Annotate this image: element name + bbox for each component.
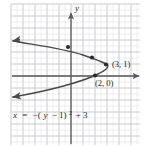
curve-point	[90, 55, 94, 59]
grid-major	[11, 4, 140, 145]
equation-neg-open: −(	[33, 110, 41, 120]
intercept-point-label: (2, 0)	[95, 78, 114, 88]
parabola-curve	[13, 40, 108, 98]
coordinate-plane-svg: y (3, 1) (2, 0) x = −( y − 1) 2	[0, 0, 145, 147]
curve-point-vertex	[104, 62, 108, 66]
graph-figure: y (3, 1) (2, 0) x = −( y − 1) 2	[0, 0, 145, 147]
curve-point	[66, 45, 70, 49]
equation-equals: =	[22, 110, 27, 120]
equation-exponent: 2	[69, 110, 72, 116]
equation-variable: y	[42, 110, 47, 120]
y-axis-label: y	[74, 3, 79, 13]
equation-plus-three: + 3	[76, 110, 88, 120]
equation-lhs: x	[12, 110, 17, 120]
curve-point-intercept	[93, 73, 97, 77]
vertex-point-label: (3, 1)	[112, 59, 131, 69]
equation-minus-one: − 1)	[52, 110, 67, 120]
